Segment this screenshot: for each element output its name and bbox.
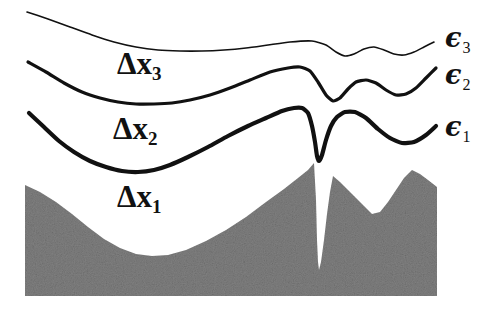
layer-thickness-label-dx3-subscript: 3 (152, 63, 162, 84)
figure-canvas (0, 0, 498, 310)
interface-label-epsilon-1: ϵ1 (445, 113, 470, 145)
interface-curve-epsilon-2 (28, 62, 436, 104)
interface-curves-group (27, 12, 436, 172)
layer-thickness-label-dx2-subscript: 2 (148, 128, 158, 149)
layer-thickness-label-dx1-subscript: 1 (152, 196, 162, 217)
interface-label-epsilon-2: ϵ2 (445, 61, 470, 93)
interface-label-epsilon-3: ϵ3 (445, 24, 470, 56)
substrate-terrain (25, 163, 437, 296)
layer-thickness-label-dx3-base: Δx (117, 46, 152, 81)
layer-thickness-label-dx1-base: Δx (117, 179, 152, 214)
interface-label-epsilon-2-base: ϵ (445, 59, 461, 90)
layer-thickness-label-dx2: Δx2 (113, 113, 157, 148)
layer-thickness-label-dx1: Δx1 (117, 181, 161, 216)
interface-label-epsilon-3-base: ϵ (445, 22, 461, 53)
interface-label-epsilon-1-subscript: 1 (462, 128, 470, 145)
terrain-group (25, 163, 437, 296)
layer-thickness-label-dx3: Δx3 (117, 48, 161, 83)
interface-curve-epsilon-1 (29, 108, 436, 172)
figure-root: Δx3 Δx2 Δx1 ϵ3 ϵ2 ϵ1 (0, 0, 498, 310)
layer-thickness-label-dx2-base: Δx (113, 111, 148, 146)
interface-curve-epsilon-3 (27, 12, 434, 56)
interface-label-epsilon-2-subscript: 2 (462, 76, 470, 93)
interface-label-epsilon-3-subscript: 3 (462, 39, 470, 56)
interface-label-epsilon-1-base: ϵ (445, 111, 461, 142)
